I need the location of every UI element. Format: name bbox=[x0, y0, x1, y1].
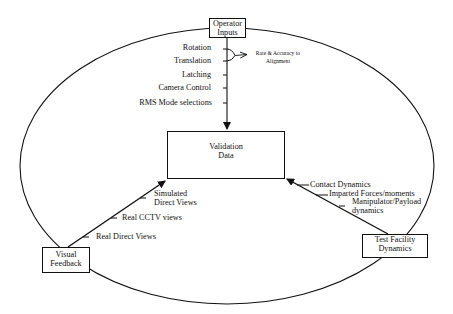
label-translation: Translation bbox=[174, 56, 211, 65]
label-camera-control: Camera Control bbox=[158, 83, 211, 92]
label-simulated-direct-views: Simulated Direct Views bbox=[154, 190, 197, 207]
label-real-cctv-views: Real CCTV views bbox=[122, 213, 182, 222]
validation-data-box: Validation Data bbox=[167, 131, 285, 179]
label-latching: Latching bbox=[182, 70, 211, 79]
operator-inputs-box: Operator Inputs bbox=[209, 18, 246, 38]
rate-accuracy-arrow bbox=[235, 55, 247, 56]
label-rotation: Rotation bbox=[183, 43, 211, 52]
label-real-direct-views: Real Direct Views bbox=[96, 232, 156, 241]
label-contact-dynamics: Contact Dynamics bbox=[310, 180, 371, 189]
rate-accuracy-bracket bbox=[227, 49, 235, 61]
test-facility-dynamics-box: Test Facility Dynamics bbox=[362, 234, 428, 258]
visual-feedback-box: Visual Feedback bbox=[42, 247, 90, 273]
label-manipulator-payload-dynamics: Manipulator/Payload dynamics bbox=[352, 198, 421, 215]
operator-input-ticks bbox=[223, 49, 227, 103]
label-rms-mode-selections: RMS Mode selections bbox=[139, 98, 212, 107]
label-rate-accuracy: Rate & Accuracy to Alignment bbox=[250, 49, 306, 65]
